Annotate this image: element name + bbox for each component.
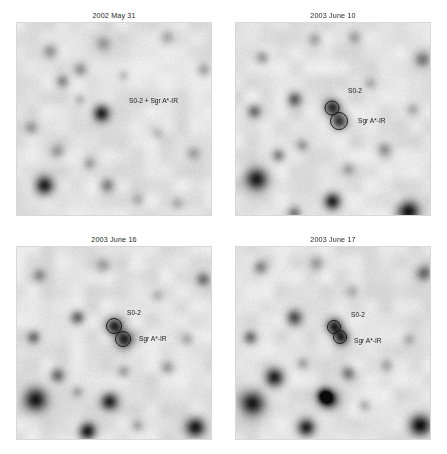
starfield-image	[236, 247, 430, 439]
starfield-image	[236, 23, 430, 215]
panel-2003-june-10: 2003 June 10 S0-2Sgr A*-IR	[235, 10, 431, 216]
panel-2003-june-17: 2003 June 17 S0-2Sgr A*-IR	[235, 234, 431, 440]
panel-2003-june-16: 2003 June 16 S0-2Sgr A*-IR	[16, 234, 212, 440]
panel-title: 2002 May 31	[16, 10, 212, 22]
image-frame: S0-2 + Sgr A*-IR	[16, 22, 212, 216]
image-frame: S0-2Sgr A*-IR	[16, 246, 212, 440]
figure-container: 2002 May 31 S0-2 + Sgr A*-IR 2003 June 1…	[0, 0, 447, 454]
image-frame: S0-2Sgr A*-IR	[235, 22, 431, 216]
panel-title: 2003 June 17	[235, 234, 431, 246]
panel-title: 2003 June 10	[235, 10, 431, 22]
panel-title: 2003 June 16	[16, 234, 212, 246]
starfield-image	[17, 247, 211, 439]
starfield-image	[17, 23, 211, 215]
panel-2002-may-31: 2002 May 31 S0-2 + Sgr A*-IR	[16, 10, 212, 216]
image-frame: S0-2Sgr A*-IR	[235, 246, 431, 440]
